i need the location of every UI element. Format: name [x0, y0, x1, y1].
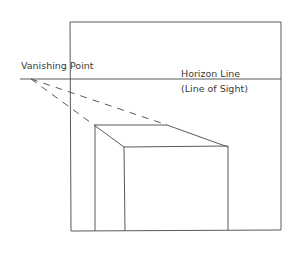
- vanishing-point-label: Vanishing Point: [21, 59, 94, 73]
- picture-frame: [70, 22, 281, 231]
- convergence-line-lower: [31, 79, 94, 125]
- box-shape: [94, 125, 228, 231]
- perspective-diagram: [0, 0, 291, 268]
- horizon-line-label: Horizon Line: [181, 67, 240, 81]
- convergence-line-upper: [31, 79, 167, 125]
- line-of-sight-label: (Line of Sight): [181, 82, 248, 96]
